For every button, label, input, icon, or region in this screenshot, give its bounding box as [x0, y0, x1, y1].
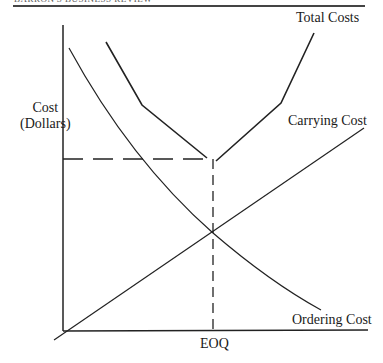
- carrying-cost-label: Carrying Cost: [288, 113, 367, 129]
- y-axis-label: Cost (Dollars): [20, 100, 71, 132]
- y-axis-label-line2: (Dollars): [20, 116, 71, 132]
- ordering-cost-curve: [69, 48, 321, 310]
- total-costs-label: Total Costs: [296, 10, 359, 26]
- x-axis: [63, 330, 368, 331]
- total-costs-left-branch: [106, 42, 207, 158]
- total-costs-right-branch: [216, 33, 314, 161]
- eoq-tick-label: EOQ: [200, 336, 229, 352]
- y-axis-label-line1: Cost: [20, 100, 71, 116]
- ordering-cost-label: Ordering Cost: [292, 312, 372, 328]
- eoq-chart: [0, 0, 383, 363]
